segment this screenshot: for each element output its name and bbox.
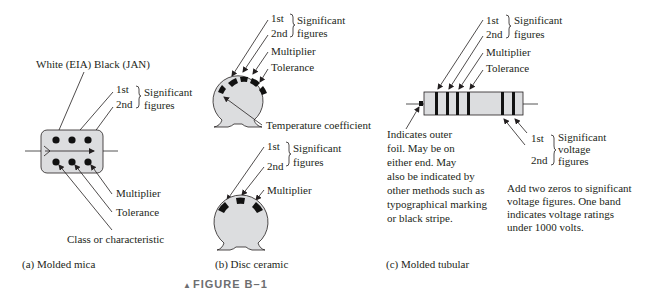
tubular-body: [424, 92, 523, 115]
disc-bottom-arrow-multiplier: [256, 190, 264, 200]
mica-arrow-white-black: [56, 72, 84, 137]
disc-top-tolerance-label: Tolerance: [271, 61, 314, 73]
disc-bottom-figures-label: figures: [293, 156, 324, 168]
disc-top-significant-label: Significant: [297, 14, 345, 26]
mica-figures-label: figures: [144, 99, 175, 111]
tubular-arrow-multiplier: [459, 53, 483, 89]
mica-dot-multiplier: [84, 158, 91, 165]
tubular-multiplier-label: Multiplier: [486, 46, 531, 58]
tubular-band-voltage-1st: [501, 92, 504, 115]
tubular-arrow-tolerance: [470, 70, 483, 89]
foil-note-line: other methods such as: [387, 184, 484, 196]
panel-disc-ceramic: 1st 2nd Significant figures Multiplier T…: [213, 12, 371, 271]
tubular-band-multiplier: [456, 92, 459, 115]
mica-dot-second: [84, 136, 91, 143]
mica-class-label: Class or characteristic: [67, 233, 164, 245]
mica-second-label: 2nd: [116, 98, 133, 110]
tubular-band-second: [446, 92, 449, 115]
disc-top-first-label: 1st: [271, 12, 284, 24]
voltage-note-line: voltage figures. One band: [507, 195, 621, 207]
mica-first-label: 1st: [116, 83, 129, 95]
disc-bottom-brace-icon: [286, 142, 291, 166]
mica-tolerance-label: Tolerance: [116, 206, 159, 218]
disc-top-brace-icon: [290, 14, 295, 37]
tubular-band-first: [435, 92, 438, 115]
mica-caption: (a) Molded mica: [22, 258, 95, 271]
mica-arrow-class: [59, 165, 112, 230]
disc-bottom-significant-label: Significant: [293, 142, 341, 154]
tubular-brace-icon: [506, 15, 511, 38]
disc-bottom-multiplier-label: Multiplier: [267, 184, 312, 196]
mica-brace-icon: [136, 86, 141, 108]
tubular-band-tolerance: [467, 92, 470, 115]
tubular-voltage-second-label: 2nd: [531, 154, 548, 166]
tubular-second-label: 2nd: [486, 28, 503, 40]
tubular-voltage-significant-label: Significant: [558, 131, 606, 143]
mica-dot-tolerance: [68, 158, 75, 165]
voltage-note-line: Add two zeros to significant: [507, 182, 632, 194]
disc-bottom-arrow-second: [242, 167, 264, 195]
mica-significant-label: Significant: [144, 86, 192, 98]
mica-dot-first: [68, 136, 75, 143]
foil-note-line: typographical marking: [387, 198, 487, 210]
foil-note-line: foil. May be on: [387, 142, 455, 154]
tubular-voltage-note: Add two zeros to significant voltage fig…: [507, 182, 632, 233]
tubular-tolerance-label: Tolerance: [486, 62, 529, 74]
mica-dot-class: [52, 158, 59, 165]
disc-top-second-label: 2nd: [271, 27, 288, 39]
disc-bottom-second-label: 2nd: [267, 160, 284, 172]
capacitor-color-code-figure: White (EIA) Black (JAN) 1st 2nd Signific…: [0, 0, 664, 294]
panel-molded-tubular: 1st 2nd Significant figures Multiplier T…: [386, 14, 632, 271]
tubular-voltage-first-label: 1st: [531, 132, 544, 144]
disc-top-multiplier-label: Multiplier: [271, 45, 316, 57]
disc-top-arrow-tolerance: [260, 69, 268, 82]
tubular-band-voltage-2nd: [512, 92, 515, 115]
tubular-voltage-figures-label: figures: [558, 155, 589, 167]
tubular-significant-label: Significant: [514, 14, 562, 26]
foil-note-line: also be indicated by: [387, 170, 475, 182]
disc-bottom-first-label: 1st: [267, 140, 280, 152]
tubular-first-label: 1st: [486, 14, 499, 26]
tubular-caption: (c) Molded tubular: [386, 258, 469, 271]
tubular-foil-marker: [419, 101, 423, 106]
mica-dot-white-black: [52, 136, 59, 143]
tubular-voltage-voltage-label: voltage: [558, 143, 590, 155]
tubular-voltage-brace-icon: [551, 135, 556, 165]
tubular-arrow-first: [438, 20, 483, 89]
foil-note-line: or black stripe.: [387, 212, 453, 224]
figure-caption-marker-icon: ▲: [183, 281, 192, 290]
voltage-note-line: indicates voltage ratings: [507, 208, 614, 220]
voltage-note-line: under 1000 volts.: [507, 221, 584, 233]
foil-note-line: either end. May: [387, 156, 457, 168]
disc-top-figures-label: figures: [297, 27, 328, 39]
tubular-arrow-second: [449, 36, 483, 89]
disc-top-arrow-multiplier: [253, 52, 268, 74]
panel-molded-mica: White (EIA) Black (JAN) 1st 2nd Signific…: [22, 58, 192, 271]
tubular-arrow-voltage-2nd: [504, 119, 525, 145]
figure-caption: FIGURE B–1: [193, 278, 268, 290]
disc-bottom-band-second: [236, 198, 245, 204]
foil-note-line: Indicates outer: [387, 128, 452, 140]
mica-top-label: White (EIA) Black (JAN): [36, 58, 150, 71]
disc-top-band-second: [240, 77, 248, 82]
disc-top-arrow-first: [232, 20, 268, 76]
disc-temp-coeff-label: Temperature coefficient: [266, 119, 371, 131]
tubular-arrow-foil: [406, 107, 419, 129]
tubular-figures-label: figures: [514, 28, 545, 40]
tubular-arrow-voltage-1st: [515, 119, 527, 133]
tubular-foil-note: Indicates outer foil. May be on either e…: [387, 128, 487, 224]
disc-caption: (b) Disc ceramic: [215, 258, 288, 271]
mica-multiplier-label: Multiplier: [116, 187, 161, 199]
